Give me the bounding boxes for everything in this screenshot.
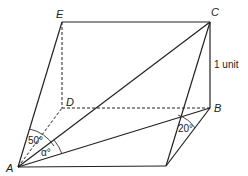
geometry-diagram: E C D B A 50° α° 20° 1 unit bbox=[0, 0, 248, 176]
edge-af bbox=[18, 166, 166, 167]
vertex-label-e: E bbox=[56, 8, 64, 20]
edge-fc bbox=[166, 22, 210, 166]
angle-label-50: 50° bbox=[28, 135, 43, 146]
measurement-label-cb: 1 unit bbox=[214, 59, 239, 70]
angle-label-alpha: α° bbox=[41, 147, 51, 158]
angle-arc-alpha bbox=[54, 140, 62, 154]
angle-label-20: 20° bbox=[178, 123, 193, 134]
vertex-label-a: A bbox=[5, 162, 13, 174]
edge-fb bbox=[166, 108, 210, 166]
vertex-label-b: B bbox=[214, 102, 221, 114]
vertex-label-d: D bbox=[66, 96, 74, 108]
vertex-label-c: C bbox=[211, 6, 219, 18]
